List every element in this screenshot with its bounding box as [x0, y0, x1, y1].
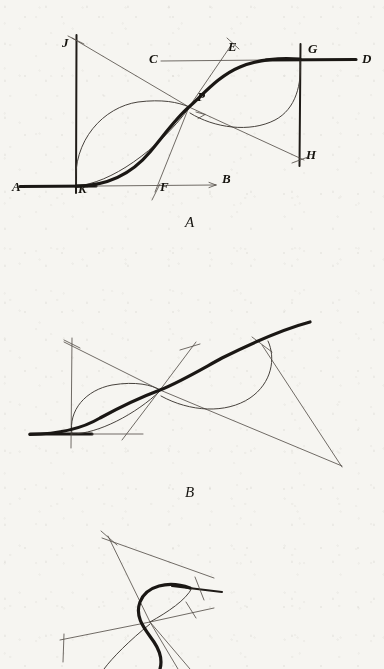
- label-E: E: [228, 40, 237, 53]
- arc-K-to-P-upper: [76, 101, 189, 186]
- figb-right-descender: [262, 345, 342, 467]
- figc-tick-lower-right: [186, 602, 196, 618]
- label-B-point: B: [222, 172, 231, 185]
- label-H: H: [306, 148, 316, 161]
- figure-caption-a: A: [185, 214, 195, 231]
- ogee-construction-svg: .heavy { fill:none; stroke:#1a1714; stro…: [0, 0, 384, 669]
- ogee-curve-a: [76, 59, 300, 187]
- line-J-P-H: [72, 38, 304, 160]
- label-C: C: [149, 52, 158, 65]
- tick-at-F: [152, 184, 160, 200]
- figure-c-group: [60, 531, 222, 669]
- line-AB-thin: [96, 185, 216, 186]
- label-A-point: A: [12, 180, 21, 193]
- figb-steep-left-tick: [180, 344, 200, 350]
- figure-a-group: [20, 35, 356, 200]
- line-CD-thin: [161, 60, 270, 61]
- figc-arc-2: [104, 624, 150, 669]
- drawing-plate: .heavy { fill:none; stroke:#1a1714; stro…: [0, 0, 384, 669]
- figure-caption-b: B: [185, 484, 195, 501]
- figb-arc-right: [161, 341, 272, 409]
- figc-tick-lower-left: [63, 634, 64, 662]
- figure-b-group: [30, 322, 342, 467]
- figc-arc: [150, 588, 192, 622]
- label-G: G: [308, 42, 317, 55]
- figc-steep-descending: [108, 536, 178, 669]
- label-F: F: [160, 180, 169, 193]
- label-D: D: [362, 52, 371, 65]
- label-K: K: [78, 182, 87, 195]
- label-P: P: [197, 90, 205, 103]
- arc-P-to-G-lower: [190, 60, 300, 127]
- label-J: J: [62, 36, 69, 49]
- line-F-P-E: [155, 44, 232, 192]
- arc-K-to-P-lower: [76, 108, 189, 186]
- figc-tangent-heavy: [172, 586, 222, 592]
